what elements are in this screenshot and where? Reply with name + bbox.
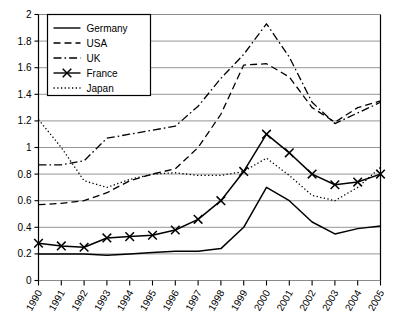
legend-label-japan: Japan [87,83,114,94]
y-tick-label: 0.4 [18,222,32,233]
y-tick-label: 0 [26,275,32,286]
x-tick-label: 2001 [274,288,295,313]
x-tick-label: 1991 [46,288,67,313]
y-tick-label: 0.6 [18,195,32,206]
chart-legend: GermanyUSAUKFranceJapan [48,15,151,96]
y-tick-label: 1.4 [18,89,32,100]
series-marker-france [285,149,294,158]
x-tick-label: 2005 [366,288,387,313]
y-tick-label: 1.2 [18,115,32,126]
x-tick-label: 1990 [24,288,45,313]
x-tick-label: 1996 [160,288,181,313]
y-tick-label: 1.8 [18,36,32,47]
x-tick-label: 2000 [252,288,273,313]
x-tick-label: 1999 [229,288,250,313]
legend-label-usa: USA [87,38,108,49]
x-tick-label: 1993 [92,288,113,313]
y-tick-label: 0.8 [18,169,32,180]
x-tick-label: 1995 [138,288,159,313]
legend-label-germany: Germany [87,23,128,34]
x-tick-label: 2003 [320,288,341,313]
series-marker-france [194,215,203,224]
y-tick-label: 1 [26,142,32,153]
x-tick-label: 1998 [206,288,227,313]
x-tick-label: 1994 [115,288,136,313]
legend-label-france: France [87,68,119,79]
x-tick-label: 2002 [297,288,318,313]
y-tick-label: 0.2 [18,248,32,259]
series-marker-france [262,130,271,139]
y-tick-label: 1.6 [18,62,32,73]
y-tick-label: 2 [26,9,32,20]
x-axis: 1990199119921993199419951996199719981999… [24,281,387,313]
x-tick-label: 1997 [183,288,204,313]
legend-label-uk: UK [87,53,101,64]
chart-canvas: 00.20.40.60.811.21.41.61.82 199019911992… [0,0,397,324]
x-tick-label: 1992 [69,288,90,313]
line-chart: 00.20.40.60.811.21.41.61.82 199019911992… [0,0,397,324]
x-tick-label: 2004 [343,288,364,313]
